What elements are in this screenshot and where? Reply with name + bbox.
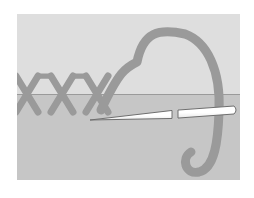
fabric-group — [17, 14, 240, 180]
illustration-stage: Cross-stitch embroidery diagram Threaded… — [0, 0, 254, 198]
cross-stitch-diagram — [0, 0, 254, 198]
